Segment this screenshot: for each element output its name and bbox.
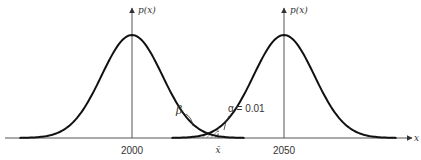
x-tick-label-2000: 2000	[121, 145, 144, 156]
beta-label: β	[175, 104, 182, 117]
x-tick-label-2050: 2050	[273, 145, 296, 156]
hypothesis-test-chart: p(x) p(x) x 2000 2050 x̄ β α = 0.01	[0, 0, 421, 160]
critical-value-label: x̄	[215, 145, 220, 155]
y-axis-right-label: p(x)	[290, 5, 308, 15]
x-axis-label: x	[414, 133, 419, 143]
y-axis-left-label: p(x)	[138, 5, 156, 15]
alpha-label: α = 0.01	[228, 103, 265, 114]
